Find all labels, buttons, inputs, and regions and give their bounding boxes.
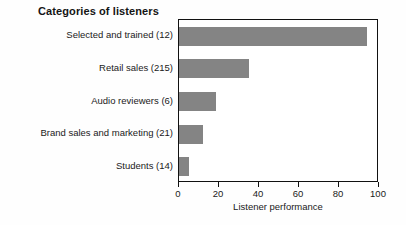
x-axis-title: Listener performance: [178, 201, 378, 212]
x-axis-tick-mark: [298, 182, 299, 187]
chart-title: Categories of listeners: [38, 5, 159, 17]
x-axis-tick-label: 20: [213, 188, 224, 199]
x-axis-tick-labels: 020406080100: [178, 188, 378, 200]
bar: [179, 27, 367, 46]
x-axis-tick-mark: [378, 182, 379, 187]
x-axis-tick-label: 100: [370, 188, 386, 199]
chart-figure: Categories of listeners Selected and tra…: [0, 0, 406, 225]
x-axis-tick-mark: [218, 182, 219, 187]
y-axis-category-label: Students (14): [0, 160, 173, 171]
y-axis-category-labels: Selected and trained (12)Retail sales (2…: [0, 19, 173, 182]
x-axis-tick-label: 60: [293, 188, 304, 199]
x-axis-tick-mark: [338, 182, 339, 187]
y-axis-category-label: Audio reviewers (6): [0, 95, 173, 106]
x-axis-tick-mark: [258, 182, 259, 187]
bar: [179, 157, 189, 176]
y-axis-category-label: Retail sales (215): [0, 62, 173, 73]
x-axis-tick-mark: [178, 182, 179, 187]
y-axis-category-label: Selected and trained (12): [0, 29, 173, 40]
bar: [179, 59, 249, 78]
x-axis-tick-label: 80: [333, 188, 344, 199]
bar: [179, 92, 216, 111]
bars-layer: [179, 20, 377, 181]
x-axis-tick-label: 40: [253, 188, 264, 199]
bar: [179, 125, 203, 144]
x-axis-tick-label: 0: [175, 188, 180, 199]
y-axis-category-label: Brand sales and marketing (21): [0, 127, 173, 138]
plot-area: [178, 19, 378, 182]
